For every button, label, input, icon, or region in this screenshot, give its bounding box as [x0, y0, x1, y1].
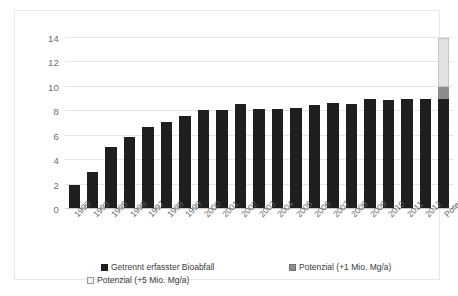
- chart-container: 02468101214 1990199319951996199719981999…: [0, 0, 458, 296]
- x-tick-label: 2010: [386, 212, 393, 219]
- x-tick-label: 1993: [91, 212, 98, 219]
- x-tick-label: 1997: [146, 212, 153, 219]
- y-axis: 02468101214: [29, 38, 63, 209]
- x-tick-label: 1996: [128, 212, 135, 219]
- chart-frame: 02468101214 1990199319951996199719981999…: [14, 10, 440, 280]
- legend-swatch-icon: [289, 264, 296, 271]
- legend-item[interactable]: Potenzial (+5 Mio. Mg/a): [87, 276, 189, 285]
- bars-layer: [65, 38, 453, 209]
- y-tick-label: 0: [54, 204, 59, 215]
- x-tick-label: 2000: [202, 212, 209, 219]
- x-tick-label: 2009: [368, 212, 375, 219]
- bar-segment[interactable]: [216, 110, 227, 209]
- bar-segment[interactable]: [383, 100, 394, 209]
- x-tick-label: 2002: [239, 212, 246, 219]
- bar-segment[interactable]: [105, 147, 116, 209]
- y-tick-label: 6: [54, 130, 59, 141]
- legend-swatch-icon: [87, 277, 94, 284]
- bar-segment[interactable]: [272, 109, 283, 209]
- y-tick-label: 10: [48, 81, 59, 92]
- x-tick-label: 2003: [257, 212, 264, 219]
- y-tick-label: 12: [48, 57, 59, 68]
- bar-segment[interactable]: [438, 99, 449, 209]
- legend-label: Getrennt erfasster Bioabfall: [111, 263, 214, 272]
- x-tick-label: 2006: [312, 212, 319, 219]
- x-tick-label: 2007: [331, 212, 338, 219]
- y-tick-label: 14: [48, 33, 59, 44]
- plot-area: [65, 38, 453, 209]
- bar-segment[interactable]: [161, 122, 172, 209]
- bar-segment[interactable]: [179, 116, 190, 209]
- x-tick-label: 1999: [183, 212, 190, 219]
- legend-label: Potenzial (+1 Mio. Mg/a): [299, 263, 391, 272]
- bar-segment[interactable]: [327, 103, 338, 209]
- x-tick-label: 2012: [423, 212, 430, 219]
- bar-segment[interactable]: [438, 38, 449, 87]
- x-tick-label: Potenzial: [442, 212, 449, 219]
- x-tick-label: 1995: [109, 212, 116, 219]
- x-axis: 1990199319951996199719981999200020012002…: [65, 210, 453, 258]
- legend-item[interactable]: Getrennt erfasster Bioabfall: [101, 263, 214, 272]
- bar-segment[interactable]: [420, 99, 431, 209]
- bar-segment[interactable]: [142, 127, 153, 209]
- bar-segment[interactable]: [364, 99, 375, 209]
- bar-segment[interactable]: [235, 104, 246, 209]
- bar-segment[interactable]: [124, 137, 135, 209]
- x-tick-label: 2004: [275, 212, 282, 219]
- legend-item[interactable]: Potenzial (+1 Mio. Mg/a): [289, 263, 391, 272]
- x-tick-label: 2008: [349, 212, 356, 219]
- bar-segment[interactable]: [438, 87, 449, 99]
- x-tick-label: 2011: [405, 212, 412, 219]
- x-tick-label: 2001: [220, 212, 227, 219]
- y-tick-label: 8: [54, 106, 59, 117]
- legend-swatch-icon: [101, 264, 108, 271]
- legend-label: Potenzial (+5 Mio. Mg/a): [97, 276, 189, 285]
- y-tick-label: 4: [54, 155, 59, 166]
- chart-legend: Getrennt erfasster BioabfallPotenzial (+…: [65, 263, 445, 289]
- bar-segment[interactable]: [290, 108, 301, 209]
- y-tick-label: 2: [54, 179, 59, 190]
- bar-segment[interactable]: [198, 110, 209, 209]
- x-tick-label: 1990: [72, 212, 79, 219]
- x-tick-label: 2005: [294, 212, 301, 219]
- bar-segment[interactable]: [253, 109, 264, 209]
- x-tick-label: 1998: [165, 212, 172, 219]
- bar-segment[interactable]: [309, 105, 320, 209]
- bar-segment[interactable]: [346, 104, 357, 209]
- bar-segment[interactable]: [401, 99, 412, 209]
